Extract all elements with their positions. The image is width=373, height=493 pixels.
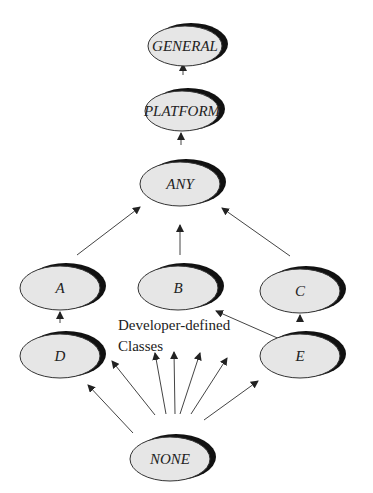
node-d: D [20,331,106,378]
node-label: NONE [149,451,190,467]
edge-none-to-developer-defined-2 [155,353,166,414]
node-label: D [54,348,66,364]
edge-none-to-d [88,385,133,433]
node-e: E [260,331,346,378]
node-label: ANY [165,176,195,192]
node-platform: PLATFORM [143,88,225,131]
node-c: C [260,266,346,313]
node-label: A [54,280,65,296]
edge-none-to-developer-defined-1 [112,361,155,415]
node-b: B [138,263,224,310]
annotation-line-1: Developer-defined [118,317,231,333]
node-label: GENERAL [152,38,218,54]
edge-none-to-developer-defined-3 [174,352,175,414]
annotation-line-2: Classes [118,338,163,354]
node-none: NONE [130,434,216,481]
node-label: B [173,280,182,296]
edge-c-to-any [222,208,290,256]
edge-none-to-e [204,381,258,420]
node-a: A [20,263,106,310]
node-label: E [294,348,304,364]
edge-a-to-any [77,207,140,255]
node-label: C [295,283,306,299]
node-general: GENERAL [148,23,228,66]
edge-none-to-developer-defined-5 [191,358,227,414]
node-label: PLATFORM [143,103,222,119]
class-hierarchy-diagram: GENERALPLATFORMANYABCDENONE Developer-de… [0,0,373,493]
node-any: ANY [140,159,226,206]
